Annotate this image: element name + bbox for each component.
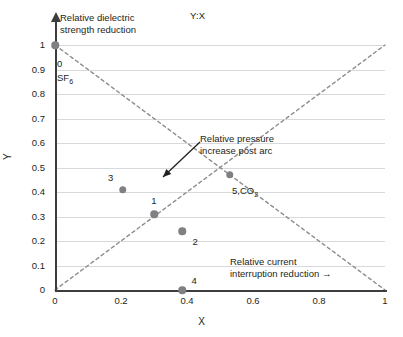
- annotation-pressure: Relative pressure increase post arc: [200, 133, 274, 156]
- x-tick-label: 1: [365, 296, 403, 306]
- co2-subscript: 2: [254, 191, 258, 198]
- annotation-dielectric: Relative dielectric strength reduction: [60, 12, 136, 35]
- x-axis-line: [55, 290, 387, 292]
- data-point-1: [150, 210, 158, 218]
- data-point-label-2: 2: [192, 236, 197, 247]
- data-point-0: [51, 41, 59, 49]
- data-point-2: [178, 227, 186, 235]
- data-point-label-1: 1: [151, 195, 156, 206]
- x-tick-label: 0.4: [167, 296, 207, 306]
- data-point-4: [178, 286, 186, 294]
- y-tick-group: 00.10.20.30.40.50.60.70.80.91: [0, 0, 50, 337]
- y-tick-label: 0.5: [32, 163, 45, 173]
- data-point-3: [119, 186, 127, 194]
- x-tick-label: 0.8: [299, 296, 339, 306]
- y-axis-label: Y: [2, 153, 13, 160]
- y-tick-label: 0: [40, 285, 45, 295]
- data-point-5: [226, 171, 234, 179]
- x-tick-label: 0: [35, 296, 75, 306]
- y-tick-label: 0.4: [32, 187, 45, 197]
- co2-label: 5,CO2: [232, 185, 258, 198]
- y-tick-label: 1: [40, 40, 45, 50]
- co2-text: CO: [240, 185, 254, 196]
- y-tick-label: 0.9: [32, 65, 45, 75]
- sf6-point-index: 0: [57, 58, 62, 69]
- sf6-subscript: 6: [69, 78, 73, 85]
- data-point-label-4: 4: [191, 275, 196, 286]
- sf6-text: SF: [57, 72, 69, 83]
- sf6-label: SF6: [57, 72, 73, 85]
- y-tick-label: 0.2: [32, 236, 45, 246]
- x-tick-label: 0.2: [101, 296, 141, 306]
- data-point-group: 3124: [55, 45, 385, 290]
- chart-title: Y:X: [190, 10, 205, 21]
- x-axis-label: X: [0, 316, 403, 327]
- chart-container: Y:X 00.10.20.30.40.50.60.70.80.91 00.20.…: [0, 0, 403, 337]
- co2-point-index: 5,: [232, 185, 240, 196]
- annotation-current: Relative current interruption reduction …: [230, 256, 331, 279]
- y-tick-label: 0.7: [32, 114, 45, 124]
- x-tick-label: 0.6: [233, 296, 273, 306]
- y-tick-label: 0.1: [32, 261, 45, 271]
- y-axis-arrow-icon: [51, 12, 61, 22]
- y-tick-label: 0.3: [32, 212, 45, 222]
- data-point-label-3: 3: [108, 171, 113, 182]
- y-tick-label: 0.8: [32, 89, 45, 99]
- y-tick-label: 0.6: [32, 138, 45, 148]
